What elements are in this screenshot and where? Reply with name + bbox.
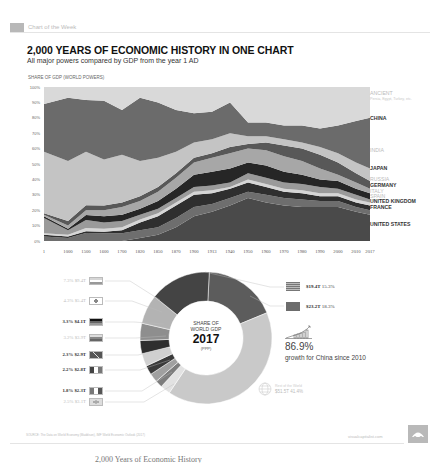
x-tick: 1950	[243, 249, 252, 254]
x-tick: 1850	[153, 249, 162, 254]
legend-value: 2.2% $2.8T	[48, 367, 86, 372]
legend-value: $19.4T 15.3%	[306, 284, 335, 289]
legend-item-france: 2.2% $2.8T	[48, 366, 168, 376]
legend-item-russia: 3.2% $3.9T	[48, 334, 168, 344]
section-marker	[10, 23, 24, 32]
series-label: INDIA	[370, 148, 384, 154]
series-label: JAPAN	[370, 166, 387, 172]
y-tick: 70%	[24, 131, 40, 136]
stacked-area-chart	[44, 87, 370, 241]
x-tick: 1900	[189, 249, 198, 254]
section-label: Chart of the Week	[28, 23, 76, 32]
china-flag-icon	[286, 302, 300, 311]
x-tick: 1820	[135, 249, 144, 254]
legend-value: 1.8% $2.3T	[48, 388, 86, 393]
y-tick: 30%	[24, 192, 40, 197]
x-tick: 1960	[261, 249, 270, 254]
legend-item-brazil: 2.5% $3.1T	[48, 398, 168, 408]
footer-divider	[10, 443, 404, 444]
y-tick: 90%	[24, 100, 40, 105]
legend-item-india: 7.3% $9.4T	[48, 277, 168, 287]
germany-flag-icon	[89, 318, 103, 326]
uk-flag-icon	[89, 351, 103, 359]
rest-of-world-value: $51.5T 41.4%	[275, 389, 303, 394]
chart-title: SHARE OF GDP (WORLD POWERS)	[28, 75, 104, 80]
x-tick: 2017	[365, 249, 374, 254]
brazil-flag-icon	[89, 398, 103, 406]
y-tick: 0%	[24, 239, 40, 244]
source-note: SOURCE: The Data on World Economy (Maddi…	[26, 433, 145, 437]
x-tick: 1940	[225, 249, 234, 254]
usa-flag-icon	[286, 282, 300, 291]
growth-chart-icon	[285, 325, 313, 339]
series-label: FRANCE	[370, 205, 392, 211]
legend-value: 2.5% $3.1T	[48, 399, 86, 404]
page-title: 2,000 YEARS OF ECONOMIC HISTORY IN ONE C…	[27, 44, 294, 56]
x-tick: 1500	[81, 249, 90, 254]
legend-value: 3.2% $3.9T	[48, 335, 86, 340]
legend-item-japan: 4.3% $5.4T	[48, 297, 168, 307]
legend-item-uk: 2.3% $2.9T	[48, 351, 168, 361]
y-tick: 10%	[24, 223, 40, 228]
image-caption: 2,000 Years of Economic History	[95, 455, 202, 463]
legend-value: 7.3% $9.4T	[48, 278, 86, 283]
page-subtitle: All major powers compared by GDP from th…	[27, 57, 198, 64]
series-label: UNITED STATES	[370, 222, 410, 228]
x-tick: 1870	[171, 249, 180, 254]
growth-description: growth for China since 2010	[285, 354, 366, 361]
logo-icon	[408, 425, 428, 443]
rest-of-world-title: Rest of the World	[275, 384, 302, 388]
series-sublabel: Persia, Egypt, Turkey, etc.	[370, 97, 412, 103]
legend-item-italy: 1.8% $2.3T	[48, 387, 168, 397]
section-header: Chart of the Week	[10, 23, 430, 33]
legend-value: 3.3% $4.1T	[48, 319, 86, 324]
x-tick: 1970	[279, 249, 288, 254]
x-tick: 1600	[99, 249, 108, 254]
legend-item-germany: 3.3% $4.1T	[48, 318, 168, 328]
y-tick: 40%	[24, 177, 40, 182]
russia-flag-icon	[89, 334, 103, 342]
legend-value: 2.3% $2.9T	[48, 352, 86, 357]
x-tick: 1	[43, 249, 45, 254]
brand-logo	[408, 425, 428, 443]
legend-item-usa: $19.4T 15.3%	[286, 282, 406, 292]
italy-flag-icon	[89, 387, 103, 395]
france-flag-icon	[89, 366, 103, 374]
series-label: ANCIENTPersia, Egypt, Turkey, etc.	[370, 91, 412, 102]
donut-center-label: SHARE OF WORLD GDP 2017 (PPP)	[170, 320, 242, 351]
growth-value: 86.9%	[285, 341, 313, 352]
y-tick: 20%	[24, 208, 40, 213]
y-tick: 60%	[24, 146, 40, 151]
x-tick: 2010	[351, 249, 360, 254]
x-tick: 1913	[207, 249, 216, 254]
legend-value: $23.2T 18.3%	[306, 304, 335, 309]
x-tick: 1000	[63, 249, 72, 254]
donut-center-year: 2017	[170, 332, 242, 346]
legend-item-china: $23.2T 18.3%	[286, 302, 406, 312]
globe-icon	[258, 382, 272, 396]
x-tick: 1990	[315, 249, 324, 254]
y-tick: 100%	[24, 85, 40, 90]
site-link[interactable]: visualcapitalist.com	[348, 434, 382, 439]
x-tick: 1700	[117, 249, 126, 254]
x-tick: 2000	[333, 249, 342, 254]
y-tick: 50%	[24, 162, 40, 167]
x-tick: 1980	[297, 249, 306, 254]
legend-value: 4.3% $5.4T	[48, 298, 86, 303]
donut-center-note: (PPP)	[170, 346, 242, 351]
series-label: CHINA	[370, 116, 386, 122]
japan-flag-icon	[89, 297, 103, 305]
india-flag-icon	[89, 277, 103, 285]
y-tick: 80%	[24, 115, 40, 120]
